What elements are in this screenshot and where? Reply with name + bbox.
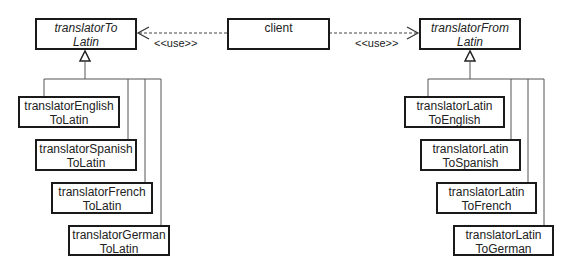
- use-stereotype-label: <<use>>: [154, 37, 197, 49]
- class-translator-latin-to-german[interactable]: translatorLatin ToGerman: [453, 225, 554, 256]
- class-name-line: ToGerman: [475, 242, 531, 256]
- class-name-line: ToEnglish: [428, 113, 480, 127]
- class-name-line: translatorSpanish: [39, 142, 132, 156]
- class-name-line: translatorFrench: [58, 185, 145, 199]
- class-translator-from-latin[interactable]: translatorFrom Latin: [419, 18, 521, 50]
- class-translator-latin-to-spanish[interactable]: translatorLatin ToSpanish: [420, 139, 521, 171]
- class-name-line: ToLatin: [67, 156, 106, 170]
- class-client[interactable]: client: [227, 18, 330, 50]
- class-translator-latin-to-french[interactable]: translatorLatin ToFrench: [436, 182, 537, 214]
- class-translator-french-to-latin[interactable]: translatorFrench ToLatin: [51, 182, 153, 214]
- class-name-line: Latin: [457, 35, 483, 49]
- class-translator-latin-to-english[interactable]: translatorLatin ToEnglish: [404, 96, 505, 128]
- class-name-line: ToLatin: [83, 199, 122, 213]
- class-name-line: client: [264, 21, 292, 35]
- class-name-line: translatorLatin: [432, 142, 508, 156]
- use-stereotype-label: <<use>>: [355, 37, 398, 49]
- class-name-line: ToFrench: [461, 199, 511, 213]
- class-name-line: Latin: [73, 35, 99, 49]
- class-name-line: translatorEnglish: [24, 99, 113, 113]
- class-name-line: ToLatin: [50, 113, 89, 127]
- inheritance-triangle-icon: [80, 51, 90, 61]
- class-name-line: translatorGerman: [72, 228, 165, 242]
- class-name-line: translatorLatin: [416, 99, 492, 113]
- class-name-line: translatorTo: [55, 21, 118, 35]
- class-translator-to-latin[interactable]: translatorTo Latin: [35, 18, 137, 50]
- class-name-line: translatorLatin: [448, 185, 524, 199]
- class-name-line: ToLatin: [100, 242, 139, 256]
- class-translator-spanish-to-latin[interactable]: translatorSpanish ToLatin: [35, 139, 137, 171]
- class-name-line: translatorFrom: [431, 21, 509, 35]
- class-name-line: ToSpanish: [442, 156, 498, 170]
- class-translator-german-to-latin[interactable]: translatorGerman ToLatin: [68, 225, 170, 256]
- class-name-line: translatorLatin: [465, 228, 541, 242]
- class-translator-english-to-latin[interactable]: translatorEnglish ToLatin: [18, 96, 120, 128]
- inheritance-triangle-icon: [465, 51, 475, 61]
